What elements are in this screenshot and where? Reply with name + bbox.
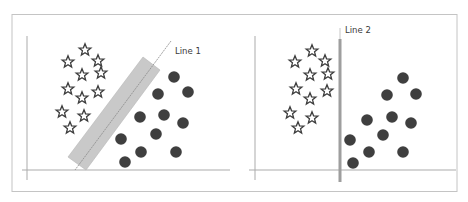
panel-2-line-label: Line 2	[345, 25, 371, 35]
circle-point	[135, 146, 147, 158]
circle-point	[182, 86, 194, 98]
circle-point	[168, 71, 180, 83]
circle-point	[119, 156, 131, 168]
circle-point	[347, 157, 359, 169]
circle-point	[344, 134, 356, 146]
circle-point	[152, 88, 164, 100]
circle-point	[150, 128, 162, 140]
circle-point	[410, 88, 422, 100]
panel-2-separating-line	[339, 39, 342, 182]
circle-point	[158, 109, 170, 121]
circle-point	[397, 146, 409, 158]
circle-point	[361, 114, 373, 126]
circle-point	[170, 146, 182, 158]
circle-point	[177, 117, 189, 129]
circle-point	[397, 72, 409, 84]
circle-point	[405, 117, 417, 129]
circle-point	[381, 89, 393, 101]
panel-1-line-label: Line 1	[175, 46, 201, 56]
circle-point	[386, 111, 398, 123]
circle-point	[134, 111, 146, 123]
circle-point	[115, 133, 127, 145]
circle-point	[377, 129, 389, 141]
circle-point	[363, 146, 375, 158]
svm-margin-diagram: Line 1 Line 2	[0, 0, 468, 202]
